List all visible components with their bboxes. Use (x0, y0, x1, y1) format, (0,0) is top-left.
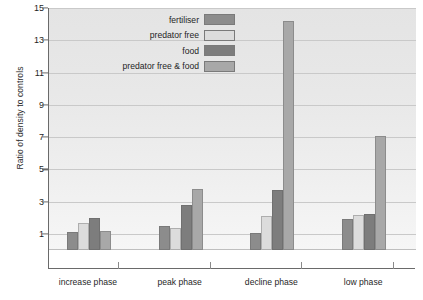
bar (89, 218, 100, 250)
y-tick-label: 9 (24, 100, 44, 110)
gridline (49, 8, 416, 9)
bar (250, 233, 261, 250)
x-tick-mark (301, 262, 302, 269)
x-axis-left-cap (48, 250, 49, 269)
bar (78, 223, 89, 250)
y-tick-mark (42, 169, 48, 170)
bar-chart: Ratio of density to controls 13579111315… (0, 0, 423, 300)
y-tick-mark (42, 72, 48, 73)
legend-item[interactable]: fertiliser (105, 12, 235, 28)
x-tick-label: low phase (344, 277, 383, 287)
y-tick-label: 3 (24, 197, 44, 207)
y-axis-title: Ratio of density to controls (15, 28, 25, 208)
bar (159, 226, 170, 250)
legend-item-label: predator free & food (123, 61, 199, 71)
bar (375, 136, 386, 250)
legend-swatch (204, 45, 235, 56)
y-tick-mark (42, 136, 48, 137)
y-tick-mark (42, 201, 48, 202)
x-tick-mark (118, 262, 119, 269)
x-tick-label: peak phase (157, 277, 201, 287)
y-tick-label: 15 (24, 3, 44, 13)
gridline (49, 137, 416, 138)
legend: fertiliserpredator freefoodpredator free… (105, 12, 235, 74)
bar (342, 219, 353, 250)
bar (67, 232, 78, 250)
gridline (49, 202, 416, 203)
legend-swatch (204, 61, 235, 72)
y-tick-label: 1 (24, 229, 44, 239)
bar (353, 215, 364, 250)
gridline (49, 105, 416, 106)
x-tick-label: increase phase (59, 277, 117, 287)
legend-swatch (204, 14, 235, 25)
legend-item[interactable]: food (105, 43, 235, 59)
x-tick-mark (393, 262, 394, 269)
x-tick-mark (210, 262, 211, 269)
y-tick-label: 7 (24, 132, 44, 142)
bar (364, 214, 375, 250)
bar (261, 216, 272, 250)
y-tick-mark (42, 233, 48, 234)
legend-item-label: fertiliser (169, 15, 199, 25)
x-axis-line (48, 268, 415, 269)
legend-swatch (204, 30, 235, 41)
bar (283, 21, 294, 250)
y-tick-label: 5 (24, 164, 44, 174)
legend-item[interactable]: predator free (105, 28, 235, 44)
y-tick-mark (42, 104, 48, 105)
legend-item[interactable]: predator free & food (105, 59, 235, 75)
y-tick-label: 11 (24, 68, 44, 78)
bar (192, 189, 203, 250)
bar (100, 231, 111, 250)
legend-item-label: food (182, 46, 199, 56)
y-tick-label: 13 (24, 35, 44, 45)
y-tick-mark (42, 40, 48, 41)
y-tick-mark (42, 7, 48, 8)
bar (170, 228, 181, 250)
gridline (49, 169, 416, 170)
bar (181, 205, 192, 250)
x-tick-label: decline phase (245, 277, 298, 287)
legend-item-label: predator free (150, 30, 199, 40)
bar (272, 190, 283, 251)
